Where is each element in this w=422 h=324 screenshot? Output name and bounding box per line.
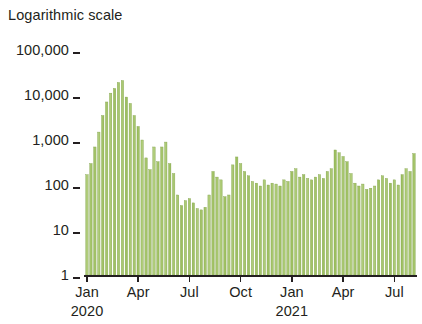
x-axis-tick-mark [189,276,190,282]
x-axis-tick-label: Oct [229,284,252,300]
x-axis-tick-mark [86,276,87,282]
x-axis-tick-label: Apr [332,284,355,300]
x-axis-tick-mark [240,276,241,282]
x-axis-tick-mark [394,276,395,282]
x-axis-tick-label: Jul [385,284,404,300]
x-axis-tick-label: Apr [127,284,150,300]
x-axis-tick-mark [137,276,138,282]
x-axis-tick-label: Jan [75,284,99,300]
x-axis-year-label: 2020 [71,303,104,319]
x-axis-tick-label: Jan [280,284,304,300]
x-axis: Jan2020AprJulOctJan2021AprJul [0,0,422,324]
x-axis-year-label: 2021 [276,303,309,319]
x-axis-tick-mark [291,276,292,282]
logarithmic-bar-chart: Logarithmic scale 100,00010,0001,0001001… [0,0,422,324]
x-axis-tick-label: Jul [180,284,199,300]
x-axis-tick-mark [342,276,343,282]
